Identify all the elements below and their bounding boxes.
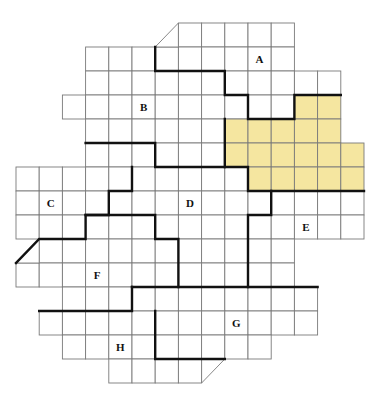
region-label-e: E bbox=[302, 221, 309, 233]
grid-cell bbox=[155, 239, 178, 263]
grid-cell bbox=[248, 215, 271, 239]
highlighted-cell bbox=[318, 143, 341, 167]
highlighted-cell bbox=[294, 119, 317, 143]
grid-cell bbox=[202, 167, 225, 191]
grid-cell bbox=[178, 335, 201, 359]
grid-cell bbox=[16, 191, 39, 215]
grid-cell bbox=[248, 335, 271, 359]
grid-cell bbox=[202, 23, 225, 47]
grid-cell bbox=[248, 311, 271, 335]
highlighted-cell bbox=[318, 167, 341, 191]
grid-cell bbox=[132, 311, 155, 335]
grid-cell bbox=[271, 71, 294, 95]
grid-cell bbox=[178, 167, 201, 191]
grid-cell bbox=[132, 143, 155, 167]
grid-cell bbox=[109, 311, 132, 335]
grid-cell bbox=[202, 335, 225, 359]
grid-cell bbox=[294, 71, 317, 95]
grid-cell bbox=[62, 263, 85, 287]
grid-cell bbox=[294, 311, 317, 335]
grid-cell bbox=[155, 287, 178, 311]
grid-cell bbox=[39, 167, 62, 191]
grid-cell bbox=[178, 359, 201, 383]
grid-cell bbox=[132, 119, 155, 143]
grid-cell bbox=[86, 143, 109, 167]
grid-cell bbox=[62, 95, 85, 119]
grid-cell bbox=[132, 191, 155, 215]
grid-cell bbox=[62, 287, 85, 311]
grid-cell bbox=[248, 191, 271, 215]
grid-cell bbox=[86, 335, 109, 359]
grid-cell bbox=[248, 239, 271, 263]
highlighted-cell bbox=[294, 95, 317, 119]
grid-cell bbox=[109, 143, 132, 167]
grid-cell bbox=[178, 23, 201, 47]
grid-cell bbox=[86, 47, 109, 71]
grid-cell bbox=[132, 335, 155, 359]
grid-cell bbox=[86, 167, 109, 191]
highlighted-cell bbox=[271, 119, 294, 143]
grid-cell bbox=[86, 95, 109, 119]
grid-cell bbox=[86, 287, 109, 311]
highlighted-cell bbox=[341, 167, 364, 191]
grid-cell bbox=[178, 47, 201, 71]
highlighted-cell bbox=[271, 143, 294, 167]
grid-cell bbox=[225, 215, 248, 239]
grid-cell bbox=[225, 239, 248, 263]
grid-cell bbox=[178, 263, 201, 287]
grid-cell bbox=[248, 71, 271, 95]
grid-cell bbox=[86, 71, 109, 95]
grid-cell bbox=[202, 263, 225, 287]
grid-cell bbox=[225, 71, 248, 95]
grid-cell bbox=[86, 191, 109, 215]
grid-cell bbox=[248, 95, 271, 119]
grid-cell bbox=[16, 167, 39, 191]
grid-cell bbox=[225, 287, 248, 311]
grid-cell bbox=[62, 335, 85, 359]
grid-cell bbox=[109, 359, 132, 383]
grid-cell bbox=[155, 143, 178, 167]
grid-cell bbox=[178, 143, 201, 167]
highlighted-cell bbox=[248, 143, 271, 167]
grid-cell bbox=[132, 167, 155, 191]
grid-cell bbox=[62, 239, 85, 263]
grid-cell bbox=[271, 215, 294, 239]
grid-cell bbox=[178, 215, 201, 239]
grid-cell bbox=[62, 167, 85, 191]
grid-cell bbox=[132, 359, 155, 383]
grid-cell bbox=[294, 287, 317, 311]
grid-cell bbox=[202, 215, 225, 239]
grid-cell bbox=[155, 335, 178, 359]
region-label-f: F bbox=[94, 269, 101, 281]
grid-cell bbox=[39, 239, 62, 263]
grid-cell bbox=[16, 215, 39, 239]
grid-cell bbox=[225, 335, 248, 359]
grid-cell bbox=[178, 311, 201, 335]
grid-cell bbox=[225, 23, 248, 47]
grid-cell bbox=[225, 167, 248, 191]
region-label-a: A bbox=[256, 53, 264, 65]
grid-cell bbox=[178, 239, 201, 263]
grid-cell bbox=[62, 191, 85, 215]
highlighted-cell bbox=[294, 167, 317, 191]
grid-cell bbox=[271, 95, 294, 119]
highlighted-cell bbox=[271, 167, 294, 191]
grid-cell bbox=[202, 95, 225, 119]
region-label-h: H bbox=[116, 341, 125, 353]
highlighted-cell bbox=[318, 119, 341, 143]
grid-cell bbox=[202, 287, 225, 311]
grid-cell bbox=[248, 263, 271, 287]
grid-cell bbox=[62, 215, 85, 239]
highlighted-cell bbox=[318, 95, 341, 119]
grid-cell bbox=[155, 191, 178, 215]
grid-cell bbox=[109, 215, 132, 239]
diagonal-corner-cell bbox=[202, 359, 225, 383]
region-label-c: C bbox=[47, 197, 55, 209]
grid-cell bbox=[155, 119, 178, 143]
grid-cell bbox=[225, 263, 248, 287]
grid-cell bbox=[132, 287, 155, 311]
grid-cell bbox=[271, 47, 294, 71]
grid-cell bbox=[109, 95, 132, 119]
grid-cell bbox=[271, 23, 294, 47]
grid-cell bbox=[86, 311, 109, 335]
